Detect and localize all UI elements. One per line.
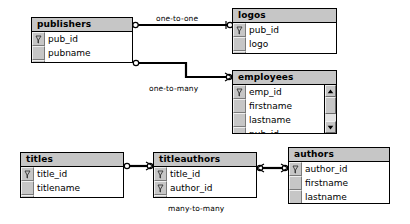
field-label: lastname <box>302 190 389 203</box>
connector-titleauthors-authors <box>257 164 288 172</box>
field-row[interactable]: logo <box>233 37 336 51</box>
scroll-up-arrow-button[interactable] <box>325 85 336 97</box>
field-gutter <box>154 195 167 197</box>
table-filler <box>233 51 336 53</box>
field-row[interactable]: title_id <box>21 167 123 181</box>
scroll-thumb[interactable] <box>325 97 336 114</box>
entity-table-authors[interactable]: authors author_id firstname lastname <box>288 147 390 204</box>
field-blank <box>246 51 336 53</box>
table-title-titleauthors: titleauthors <box>154 153 256 167</box>
field-row[interactable]: lastname <box>289 190 389 203</box>
field-gutter <box>21 195 34 197</box>
connector-one-to-many <box>133 60 232 81</box>
employees-scrollbar[interactable] <box>324 85 336 133</box>
entity-table-publishers[interactable]: publishers pub_id pubname <box>31 17 133 63</box>
field-list-titleauthors: title_id author_id <box>154 167 256 197</box>
field-row[interactable]: emp_id <box>233 85 324 99</box>
table-title-publishers: publishers <box>32 18 132 32</box>
key-icon <box>233 85 246 99</box>
field-label: firstname <box>246 99 324 113</box>
field-blank <box>167 195 256 197</box>
field-list-authors: author_id firstname lastname <box>289 162 389 203</box>
table-title-authors: authors <box>289 148 389 162</box>
field-gutter <box>233 37 246 51</box>
field-row[interactable]: pub_id <box>233 127 324 133</box>
scroll-track[interactable] <box>325 97 336 121</box>
field-row[interactable]: firstname <box>289 176 389 190</box>
table-filler <box>154 195 256 197</box>
field-list-logos: pub_id logo <box>233 23 336 53</box>
scroll-down-arrow-button[interactable] <box>325 121 336 133</box>
field-label: pubname <box>45 46 132 60</box>
connector-titles-titleauthors <box>124 162 153 170</box>
field-label: emp_id <box>246 85 324 99</box>
relationship-label-many-to-many: many-to-many <box>168 204 224 213</box>
field-label: firstname <box>302 176 389 190</box>
field-label: pub_id <box>246 23 336 37</box>
entity-table-logos[interactable]: logos pub_id logo <box>232 8 337 54</box>
field-row[interactable]: pub_id <box>32 32 132 46</box>
field-row[interactable]: title_id <box>154 167 256 181</box>
table-title-employees: employees <box>233 71 336 85</box>
field-label: pub_id <box>45 32 132 46</box>
entity-table-titleauthors[interactable]: titleauthors title_id author_id <box>153 152 257 198</box>
field-gutter <box>289 176 302 190</box>
field-blank <box>45 60 132 62</box>
field-gutter <box>21 181 34 195</box>
table-title-logos: logos <box>233 9 336 23</box>
employees-body: emp_id firstname lastname pub_id <box>233 85 336 133</box>
field-row[interactable]: titlename <box>21 181 123 195</box>
field-gutter <box>32 60 45 62</box>
field-row[interactable]: firstname <box>233 99 324 113</box>
field-row[interactable]: lastname <box>233 113 324 127</box>
field-row[interactable]: author_id <box>154 181 256 195</box>
field-row[interactable]: pubname <box>32 46 132 60</box>
key-icon <box>154 167 167 181</box>
table-title-titles: titles <box>21 153 123 167</box>
relationship-label-one-to-many: one-to-many <box>149 84 198 93</box>
field-label: title_id <box>167 167 256 181</box>
field-label: pub_id <box>246 127 324 133</box>
table-filler <box>32 60 132 62</box>
field-gutter <box>233 99 246 113</box>
entity-table-titles[interactable]: titles title_id titlename <box>20 152 124 198</box>
field-list-publishers: pub_id pubname <box>32 32 132 62</box>
field-gutter <box>233 51 246 53</box>
field-label: title_id <box>34 167 123 181</box>
field-label: logo <box>246 37 336 51</box>
field-list-titles: title_id titlename <box>21 167 123 197</box>
field-row[interactable]: pub_id <box>233 23 336 37</box>
field-label: author_id <box>302 162 389 176</box>
field-label: lastname <box>246 113 324 127</box>
field-gutter <box>233 113 246 127</box>
key-icon <box>32 32 45 46</box>
diagram-canvas: publishers pub_id pubname logos <box>0 0 410 224</box>
field-gutter <box>233 127 246 133</box>
key-icon <box>233 23 246 37</box>
key-icon <box>289 162 302 176</box>
field-list-employees: emp_id firstname lastname pub_id <box>233 85 324 133</box>
field-label: author_id <box>167 181 256 195</box>
key-icon <box>154 181 167 195</box>
relationship-label-one-to-one: one-to-one <box>156 14 198 23</box>
field-row[interactable]: author_id <box>289 162 389 176</box>
key-icon <box>21 167 34 181</box>
field-gutter <box>289 190 302 203</box>
field-gutter <box>32 46 45 60</box>
entity-table-employees[interactable]: employees emp_id firstname lastname <box>232 70 337 134</box>
field-blank <box>34 195 123 197</box>
table-filler <box>21 195 123 197</box>
field-label: titlename <box>34 181 123 195</box>
